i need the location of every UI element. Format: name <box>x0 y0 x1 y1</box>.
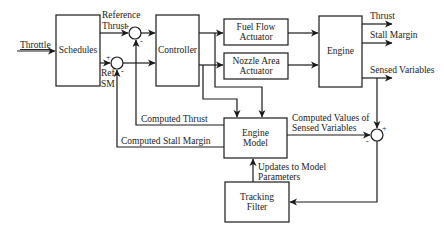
ref-sm-label-2: SM <box>101 79 115 89</box>
engine-model-line1: Engine <box>242 128 269 139</box>
fuel-flow-line1: Fuel Flow <box>237 22 276 33</box>
stall-margin-out-label: Stall Margin <box>370 30 418 40</box>
computed-stall-margin-label: Computed Stall Margin <box>121 136 211 146</box>
computed-thrust-label: Computed Thrust <box>141 114 208 124</box>
engine-label: Engine <box>319 16 362 87</box>
fuel-flow-actuator-label: Fuel Flow Actuator <box>224 19 288 45</box>
tracking-filter-line2: Filter <box>247 202 268 213</box>
engine-model-line2: Model <box>243 138 268 149</box>
reference-thrust-label-2: Thrust <box>102 21 127 31</box>
controller-label: Controller <box>156 15 199 86</box>
thrust-sum-minus: - <box>140 37 143 47</box>
sensed-sum-plus: + <box>382 124 387 134</box>
sensed-sum-minus: - <box>366 137 369 147</box>
updates-label-1: Updates to Model <box>258 162 326 172</box>
schedules-label: Schedules <box>56 15 100 86</box>
engine-model-label: Engine Model <box>224 118 287 158</box>
nozzle-area-actuator-label: Nozzle Area Actuator <box>224 53 288 79</box>
thrust-sum-plus: + <box>125 22 130 32</box>
nozzle-line2: Actuator <box>239 66 272 77</box>
sm-sum-plus: + <box>106 53 111 63</box>
updates-label-2: Parameters <box>258 172 300 182</box>
sensed-variables-label: Sensed Variables <box>370 65 434 75</box>
computed-values-label-1: Computed Values of <box>292 113 369 123</box>
computed-values-label-2: Sensed Variables <box>292 123 356 133</box>
tracking-filter-line1: Tracking <box>240 192 274 203</box>
nozzle-line1: Nozzle Area <box>232 56 279 67</box>
reference-thrust-label-1: Reference <box>102 10 141 20</box>
thrust-out-label: Thrust <box>370 11 395 21</box>
fuel-flow-line2: Actuator <box>239 32 272 43</box>
tracking-filter-label: Tracking Filter <box>225 182 289 222</box>
throttle-label: Throttle <box>20 40 51 50</box>
sm-sum-minus: - <box>121 67 124 77</box>
ref-sm-label-1: Ref <box>101 68 115 78</box>
